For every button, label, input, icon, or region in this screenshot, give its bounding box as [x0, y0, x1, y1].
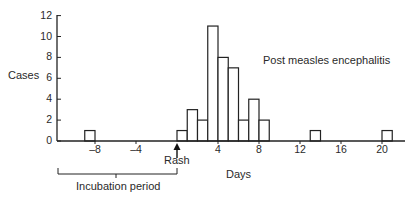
incubation-bracket	[58, 168, 177, 178]
y-tick-label: 2	[36, 113, 52, 125]
histogram-bar	[218, 57, 228, 141]
histogram-chart	[0, 0, 412, 204]
histogram-bar	[198, 120, 208, 141]
x-tick-label: 12	[294, 143, 306, 155]
histogram-bar	[310, 131, 320, 141]
chart-annotation: Post measles encephalitis	[263, 54, 390, 66]
x-tick-label: 20	[376, 143, 388, 155]
y-tick-label: 0	[36, 134, 52, 146]
histogram-bar	[208, 26, 218, 141]
histogram-bar	[228, 68, 238, 141]
histogram-bar	[259, 120, 269, 141]
histogram-bars	[85, 26, 393, 141]
rash-label: Rash	[164, 154, 190, 166]
x-tick-label: 8	[256, 143, 262, 155]
y-tick-label: 8	[36, 50, 52, 62]
y-tick-label: 10	[36, 30, 52, 42]
histogram-bar	[382, 131, 392, 141]
x-tick-label: –8	[89, 143, 101, 155]
y-axis-label: Cases	[8, 69, 39, 81]
histogram-bar	[249, 99, 259, 141]
histogram-bar	[85, 131, 95, 141]
histogram-bar	[239, 120, 249, 141]
y-tick-label: 4	[36, 92, 52, 104]
y-tick-label: 12	[36, 9, 52, 21]
histogram-bar	[187, 110, 197, 141]
x-tick-label: 16	[335, 143, 347, 155]
x-tick-label: –4	[130, 143, 142, 155]
x-axis-label: Days	[226, 168, 251, 180]
incubation-period-label: Incubation period	[76, 180, 160, 192]
histogram-bar	[177, 131, 187, 141]
x-tick-label: 4	[215, 143, 221, 155]
